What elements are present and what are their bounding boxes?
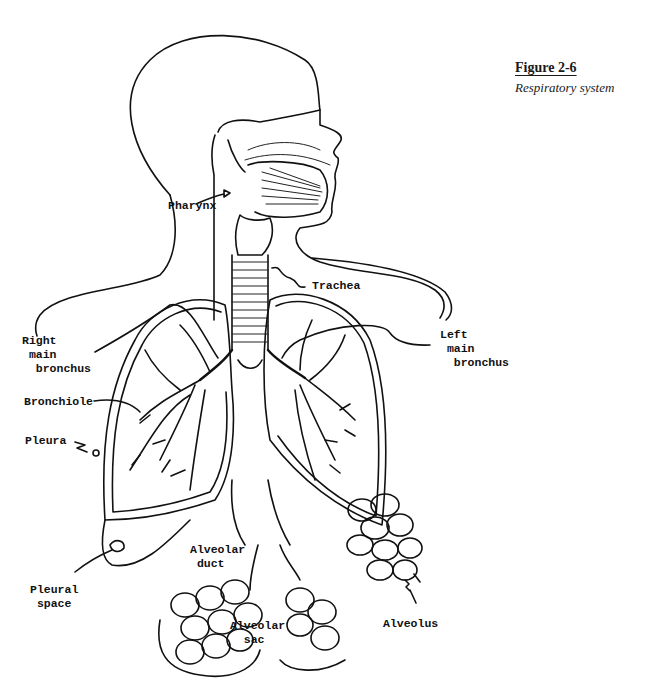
label-trachea: Trachea	[312, 279, 360, 293]
label-alveolar-sac: Alveolar sac	[230, 619, 285, 647]
head-outline	[130, 36, 444, 318]
label-pharynx: Pharynx	[168, 199, 216, 213]
respiratory-system-illustration	[0, 0, 648, 695]
label-bronchiole: Bronchiole	[24, 395, 93, 409]
label-pleura: Pleura	[25, 434, 66, 448]
label-alveolar-duct: Alveolar duct	[190, 543, 245, 571]
label-alveolus: Alveolus	[383, 617, 438, 631]
label-pleural-space: Pleural space	[30, 583, 78, 611]
neck-back	[36, 195, 175, 336]
right-lung-outline	[104, 300, 234, 520]
label-right-main-bronchus: Right main bronchus	[22, 334, 91, 376]
left-lung-outline	[264, 294, 386, 525]
label-left-main-bronchus: Left main bronchus	[440, 328, 509, 370]
